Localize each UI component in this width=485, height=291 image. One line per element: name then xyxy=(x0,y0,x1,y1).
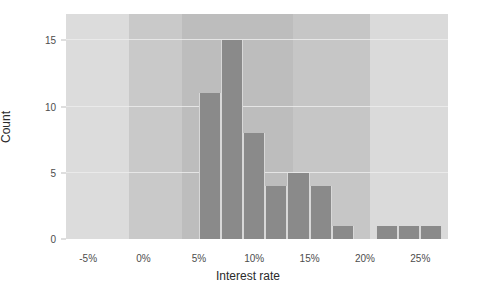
bar xyxy=(420,226,442,239)
y-tick-mark xyxy=(61,106,66,107)
background-band xyxy=(370,14,448,239)
bar xyxy=(221,40,243,239)
background-band xyxy=(66,14,129,239)
bar xyxy=(398,226,420,239)
y-axis-title: Count xyxy=(0,111,13,143)
x-tick-label: 20% xyxy=(355,253,375,264)
gridline xyxy=(66,106,448,107)
x-tick-label: 10% xyxy=(244,253,264,264)
histogram-chart: 051015 Count -5%0%5%10%15%20%25% Interes… xyxy=(0,0,485,291)
plot-area xyxy=(66,14,448,239)
bar xyxy=(376,226,398,239)
y-tick-mark xyxy=(61,172,66,173)
bar xyxy=(199,93,221,239)
bar xyxy=(265,186,287,239)
x-tick-label: -5% xyxy=(79,253,97,264)
x-tick-label: 5% xyxy=(192,253,206,264)
bar xyxy=(310,186,332,239)
x-tick-label: 15% xyxy=(300,253,320,264)
y-tick-label: 10 xyxy=(45,101,56,112)
y-tick-label: 5 xyxy=(50,167,56,178)
x-axis: -5%0%5%10%15%20%25% Interest rate xyxy=(0,239,485,291)
x-tick-label: 25% xyxy=(410,253,430,264)
x-axis-title: Interest rate xyxy=(216,269,280,283)
bar xyxy=(332,226,354,239)
y-tick-mark xyxy=(61,40,66,41)
gridline xyxy=(66,39,448,40)
bar xyxy=(243,133,265,239)
bar xyxy=(287,173,309,239)
y-tick-label: 15 xyxy=(45,35,56,46)
background-band xyxy=(129,14,182,239)
x-tick-label: 0% xyxy=(136,253,150,264)
